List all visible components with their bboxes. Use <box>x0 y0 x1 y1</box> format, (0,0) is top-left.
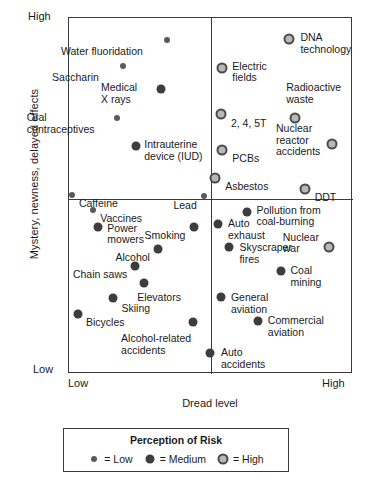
data-point-marker <box>130 262 139 271</box>
plot-area: Water fluoridationSaccharinMedical X ray… <box>68 17 352 373</box>
data-point-label: Coal mining <box>291 265 322 288</box>
data-point-label: Saccharin <box>52 72 99 84</box>
data-point-label: Bicycles <box>86 317 125 329</box>
y-axis-min-label: Low <box>33 363 53 375</box>
data-point-label: Alcohol-related accidents <box>121 333 191 356</box>
data-point-marker <box>299 183 310 194</box>
data-point-label: General aviation <box>231 292 268 315</box>
data-point-label: Auto exhaust <box>228 218 265 241</box>
data-point-label: Smoking <box>145 230 186 242</box>
data-point-label: Water fluoridation <box>61 46 143 58</box>
data-point-marker <box>276 266 285 275</box>
data-point-marker <box>253 316 262 325</box>
data-point-label: Skiing <box>122 303 151 315</box>
legend-title: Perception of Risk <box>64 434 288 446</box>
data-point-label: Intrauterine device (IUD) <box>144 139 202 162</box>
data-point-label: Lead <box>173 200 196 212</box>
y-axis-max-label: High <box>28 10 51 22</box>
data-point-label: DDT <box>315 192 337 204</box>
data-point-label: Medical X rays <box>101 82 137 105</box>
data-point-label: DNA technology <box>300 32 351 55</box>
legend-item-high: = High <box>217 453 264 465</box>
data-point-marker <box>154 245 163 254</box>
x-axis-title: Dread level <box>68 397 352 409</box>
data-point-marker <box>188 318 197 327</box>
data-point-label: Nuclear war <box>283 232 319 255</box>
legend-label-medium: = Medium <box>160 453 206 465</box>
data-point-marker <box>120 63 126 69</box>
data-point-label: Oral contraceptives <box>27 112 95 135</box>
quadrant-divider-vertical <box>211 18 212 374</box>
data-point-marker <box>216 144 227 155</box>
data-point-label: 2, 4, 5T <box>231 118 267 130</box>
data-point-marker <box>326 139 337 150</box>
data-point-marker <box>109 293 118 302</box>
data-point-marker <box>114 115 120 121</box>
risk-perception-scatter-chart: Mystery, newness, delayed effects High L… <box>0 0 371 489</box>
data-point-marker <box>189 223 198 232</box>
data-point-label: Commercial aviation <box>268 315 324 338</box>
legend-box: Perception of Risk = Low = Medium = High <box>63 428 289 472</box>
x-axis-min-label: Low <box>68 377 88 389</box>
data-point-marker <box>93 223 102 232</box>
data-point-label: Electric fields <box>232 61 266 84</box>
legend-label-high: = High <box>233 453 264 465</box>
data-point-label: Asbestos <box>225 181 268 193</box>
legend-entries: = Low = Medium = High <box>64 453 288 465</box>
data-point-marker <box>242 208 251 217</box>
data-point-marker <box>140 278 149 287</box>
x-axis-max-label: High <box>322 377 345 389</box>
data-point-marker <box>225 243 234 252</box>
legend-marker-medium-icon <box>144 453 156 465</box>
data-point-marker <box>214 219 223 228</box>
data-point-marker <box>73 310 82 319</box>
data-point-label: Nuclear reactor accidents <box>276 123 320 158</box>
data-point-marker <box>284 34 295 45</box>
data-point-label: Power mowers <box>107 223 144 246</box>
data-point-marker <box>90 207 96 213</box>
data-point-marker <box>69 192 75 198</box>
legend-marker-high-icon <box>217 453 229 465</box>
data-point-marker <box>157 84 166 93</box>
legend-item-low: = Low <box>88 453 132 465</box>
data-point-marker <box>216 293 225 302</box>
data-point-label: Caffeine <box>79 198 118 210</box>
data-point-marker <box>323 242 334 253</box>
data-point-marker <box>209 173 220 184</box>
data-point-marker <box>206 348 215 357</box>
data-point-label: Auto accidents <box>221 347 265 370</box>
data-point-marker <box>201 193 207 199</box>
data-point-label: Radioactive waste <box>286 82 341 105</box>
y-axis-title: Mystery, newness, delayed effects <box>28 44 40 304</box>
data-point-marker <box>164 37 170 43</box>
legend-item-medium: = Medium <box>144 453 206 465</box>
data-point-label: PCBs <box>232 153 259 165</box>
data-point-marker <box>132 142 141 151</box>
data-point-label: Chain saws <box>73 269 127 281</box>
data-point-marker <box>215 109 226 120</box>
legend-marker-low-icon <box>88 453 100 465</box>
data-point-label: Pollution from coal-burning <box>256 205 320 228</box>
legend-label-low: = Low <box>104 453 132 465</box>
data-point-marker <box>217 62 228 73</box>
